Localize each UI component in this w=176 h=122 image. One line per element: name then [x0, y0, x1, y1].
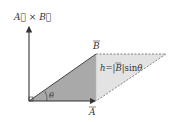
cross-product-diagram: A⃗ × B⃗ B A θ h=|B|sinθ: [0, 0, 176, 122]
cross-product-label: A⃗ × B⃗: [13, 12, 51, 22]
svg-text:h=|B|sinθ: h=|B|sinθ: [100, 63, 142, 74]
vector-a-label: A: [88, 107, 96, 117]
angle-theta-label: θ: [49, 91, 54, 100]
height-formula-label: h=|B|sinθ: [100, 63, 142, 74]
vector-b-label: B: [92, 41, 100, 51]
